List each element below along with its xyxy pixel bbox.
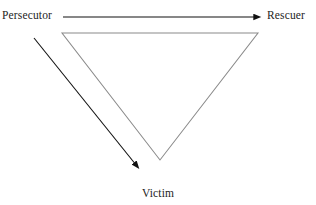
drama-triangle-svg xyxy=(0,0,316,205)
persecutor-to-victim-arrow xyxy=(34,38,135,163)
inverted-triangle-shape xyxy=(62,33,258,160)
diagram-canvas: Persecutor Rescuer Victim xyxy=(0,0,316,205)
label-victim: Victim xyxy=(142,187,174,200)
label-persecutor: Persecutor xyxy=(2,9,52,22)
label-rescuer: Rescuer xyxy=(267,9,305,22)
